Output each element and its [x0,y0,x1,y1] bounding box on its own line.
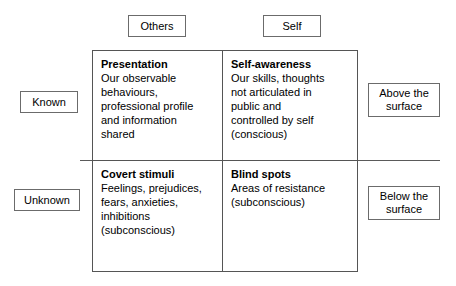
quadrant-presentation-title: Presentation [101,57,215,71]
quadrant-blind-spots: Blind spots Areas of resistance (subcons… [223,161,357,271]
column-header-others: Others [128,15,186,37]
quadrant-covert-stimuli-body: Feelings, prejudices, fears, anxieties, … [101,181,215,237]
column-header-others-label: Others [140,20,173,33]
row-header-unknown-label: Unknown [24,194,70,207]
right-label-below-the-surface: Below the surface [368,186,440,220]
right-label-above-the-surface: Above the surface [368,83,440,117]
quadrant-covert-stimuli: Covert stimuli Feelings, prejudices, fea… [93,161,223,271]
quadrant-presentation-body: Our observable behaviours, professional … [101,71,215,141]
row-header-unknown: Unknown [14,189,80,211]
quadrant-blind-spots-body: Areas of resistance (subconscious) [231,181,350,209]
quadrant-covert-stimuli-title: Covert stimuli [101,167,215,181]
quadrant-self-awareness-body: Our skills, thoughts not articulated in … [231,71,350,141]
johari-window-diagram: Others Self Known Unknown Above the surf… [0,0,456,286]
row-header-known: Known [20,91,78,113]
quadrant-self-awareness-title: Self-awareness [231,57,350,71]
right-label-above-the-surface-text: Above the surface [379,87,429,113]
right-label-below-the-surface-text: Below the surface [380,190,428,216]
quadrant-presentation: Presentation Our observable behaviours, … [93,51,223,161]
quadrant-grid: Presentation Our observable behaviours, … [92,50,358,272]
quadrant-self-awareness: Self-awareness Our skills, thoughts not … [223,51,357,161]
column-header-self-label: Self [283,20,302,33]
row-header-known-label: Known [32,96,66,109]
quadrant-blind-spots-title: Blind spots [231,167,350,181]
column-header-self: Self [263,15,321,37]
